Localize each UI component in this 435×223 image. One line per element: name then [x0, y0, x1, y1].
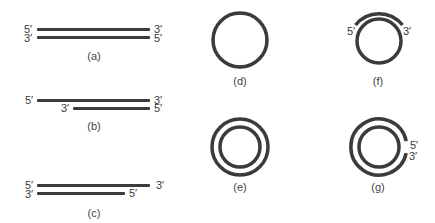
circle-f-inner	[357, 19, 401, 63]
circle-g-inner	[359, 127, 399, 167]
caption-g: (g)	[363, 182, 393, 193]
circle-e-inner	[220, 127, 260, 167]
label-f-right: 3′	[403, 26, 411, 37]
label-g-bottom: 3′	[409, 151, 417, 162]
circle-d	[213, 13, 267, 67]
caption-e: (e)	[225, 182, 255, 193]
caption-f: (f)	[363, 76, 393, 87]
caption-d: (d)	[225, 76, 255, 87]
label-f-left: 5′	[347, 26, 355, 37]
